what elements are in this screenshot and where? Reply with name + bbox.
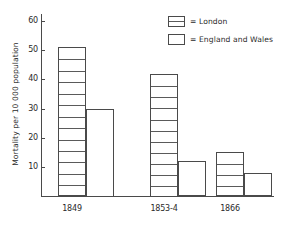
bar-segment-divider: [59, 71, 85, 72]
bar-segment-divider: [151, 131, 177, 132]
bar-segment-divider: [151, 175, 177, 176]
bar-england-and-wales-1866: [244, 173, 272, 196]
y-axis-title: Mortality per 10 000 population: [12, 34, 20, 174]
legend-label-london: = London: [190, 17, 227, 26]
legend-item-london: = London: [168, 12, 273, 30]
bar-segment-divider: [151, 86, 177, 87]
bar-segment-divider: [59, 140, 85, 141]
empty-box-icon: [168, 34, 185, 45]
bar-segment-divider: [151, 153, 177, 154]
bar-segment-divider: [59, 117, 85, 118]
x-axis-label-1849: 1849: [52, 205, 92, 213]
x-axis-label-1866: 1866: [210, 205, 250, 213]
y-tick-label: 60: [18, 17, 38, 25]
bar-london-1849: [58, 47, 86, 196]
x-axis-label-1853-4: 1853-4: [144, 205, 184, 213]
y-tick-mark: [42, 138, 45, 139]
bar-segment-divider: [59, 151, 85, 152]
bar-segment-divider: [59, 162, 85, 163]
bar-segment-divider: [151, 164, 177, 165]
bar-segment-divider: [151, 108, 177, 109]
y-tick-mark: [42, 79, 45, 80]
bar-segment-divider: [217, 186, 243, 187]
legend-item-england-and-wales: = England and Wales: [168, 30, 273, 48]
y-tick-label: 10: [18, 163, 38, 171]
bar-segment-divider: [59, 185, 85, 186]
bar-segment-divider: [151, 186, 177, 187]
bar-segment-divider: [151, 142, 177, 143]
bar-segment-divider: [151, 120, 177, 121]
y-axis-line: [41, 14, 42, 197]
y-tick-label: 20: [18, 134, 38, 142]
bar-england-and-wales-1853-4: [178, 161, 206, 196]
y-tick-label: 50: [18, 46, 38, 54]
legend: = London = England and Wales: [168, 12, 273, 48]
y-tick-mark: [42, 167, 45, 168]
cholera-mortality-bar-chart: Mortality per 10 000 population 60504030…: [0, 0, 286, 227]
y-tick-mark: [42, 50, 45, 51]
y-tick-label: 40: [18, 75, 38, 83]
bar-segment-divider: [217, 164, 243, 165]
bar-england-and-wales-1849: [86, 109, 114, 197]
bar-segment-divider: [59, 82, 85, 83]
segmented-box-icon: [168, 16, 185, 27]
bar-london-1866: [216, 152, 244, 196]
bar-segment-divider: [59, 59, 85, 60]
y-tick-mark: [42, 109, 45, 110]
bar-london-1853-4: [150, 74, 178, 197]
bar-segment-divider: [59, 174, 85, 175]
bar-segment-divider: [151, 97, 177, 98]
bar-segment-divider: [59, 94, 85, 95]
legend-label-england-and-wales: = England and Wales: [190, 35, 273, 44]
bar-segment-divider: [59, 105, 85, 106]
bar-segment-divider: [59, 128, 85, 129]
bar-segment-divider: [217, 175, 243, 176]
y-tick-mark: [42, 21, 45, 22]
y-tick-label: 30: [18, 105, 38, 113]
